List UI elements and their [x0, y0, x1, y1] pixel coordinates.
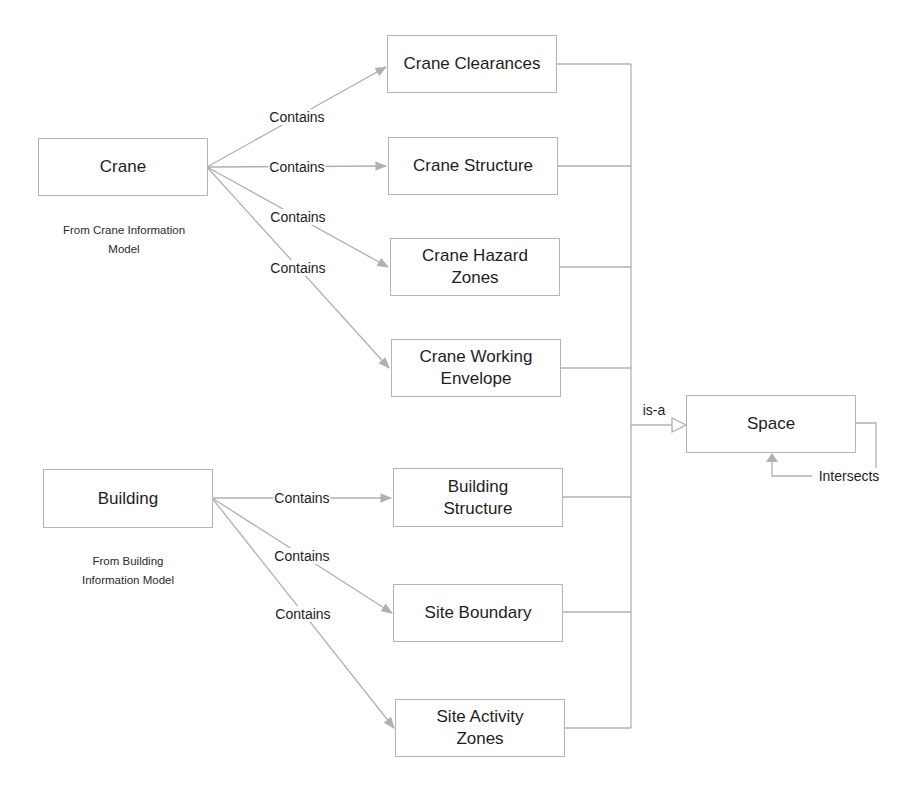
- node-crane-structure[interactable]: Crane Structure: [388, 137, 558, 195]
- node-label: Crane: [100, 156, 146, 178]
- caption-line: From Crane Information: [24, 221, 224, 240]
- intersects-arrowhead: [766, 453, 778, 462]
- node-site-boundary[interactable]: Site Boundary: [393, 584, 563, 642]
- node-label: Building: [98, 488, 159, 510]
- edge-label-contains: Contains: [269, 260, 326, 276]
- node-label: Crane Clearances: [403, 53, 540, 75]
- node-crane-working-envelope[interactable]: Crane Working Envelope: [391, 339, 561, 397]
- node-building-structure[interactable]: Building Structure: [393, 468, 563, 527]
- caption-line: Information Model: [28, 571, 228, 590]
- node-label: Site Activity Zones: [425, 706, 535, 750]
- node-crane[interactable]: Crane: [38, 138, 208, 196]
- node-crane-clearances[interactable]: Crane Clearances: [387, 35, 557, 93]
- node-building[interactable]: Building: [43, 469, 213, 528]
- node-label: Site Boundary: [425, 602, 532, 624]
- edge-label-contains: Contains: [268, 109, 325, 125]
- edge-label-intersects: Intersects: [818, 468, 881, 484]
- node-label: Crane Hazard Zones: [415, 245, 535, 289]
- edge-label-contains: Contains: [269, 209, 326, 225]
- node-label: Crane Working Envelope: [411, 346, 541, 390]
- edge-label-contains: Contains: [273, 548, 330, 564]
- edge-label-contains: Contains: [268, 159, 325, 175]
- node-label: Building Structure: [433, 476, 523, 520]
- edge-label-is-a: is-a: [642, 402, 667, 418]
- node-label: Crane Structure: [413, 155, 533, 177]
- is-a-arrowhead: [672, 418, 686, 432]
- ontology-diagram: Crane From Crane Information Model Build…: [0, 0, 922, 790]
- caption-line: Model: [24, 240, 224, 259]
- node-space[interactable]: Space: [686, 395, 856, 453]
- node-label: Space: [747, 413, 795, 435]
- edge-label-contains: Contains: [273, 490, 330, 506]
- node-site-activity-zones[interactable]: Site Activity Zones: [395, 699, 565, 757]
- edge-label-contains: Contains: [274, 606, 331, 622]
- crane-source-caption: From Crane Information Model: [24, 221, 224, 259]
- node-crane-hazard-zones[interactable]: Crane Hazard Zones: [390, 238, 560, 296]
- building-source-caption: From Building Information Model: [28, 552, 228, 590]
- caption-line: From Building: [28, 552, 228, 571]
